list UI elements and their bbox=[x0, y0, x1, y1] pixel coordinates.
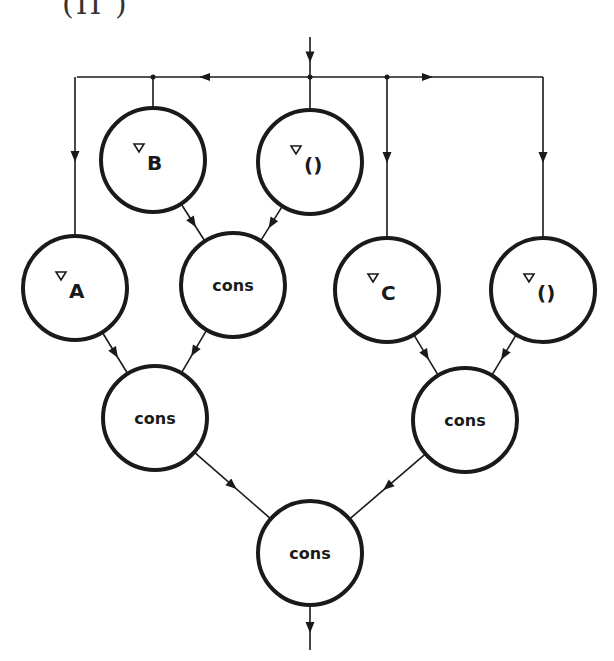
node-label: cons bbox=[444, 411, 485, 430]
arrowhead-icon bbox=[71, 151, 80, 162]
nodes: B()AconsC()consconscons bbox=[23, 108, 595, 605]
arrowhead-icon bbox=[199, 73, 210, 81]
node-label: cons bbox=[212, 276, 253, 295]
node-b: B bbox=[101, 108, 205, 212]
arrowhead-icon bbox=[191, 344, 200, 356]
arrowhead-icon bbox=[419, 348, 429, 360]
arrowhead-icon bbox=[186, 215, 196, 227]
node-label: A bbox=[69, 279, 85, 303]
node-label: cons bbox=[134, 409, 175, 428]
node-nil2: () bbox=[491, 238, 595, 342]
node-label: cons bbox=[289, 544, 330, 563]
node-cons1: cons bbox=[181, 233, 285, 337]
arrowhead-icon bbox=[422, 73, 433, 81]
node-nil1: () bbox=[258, 110, 362, 214]
arrowhead-icon bbox=[306, 622, 315, 633]
arrowhead-icon bbox=[539, 152, 548, 163]
node-cons2: cons bbox=[103, 366, 207, 470]
node-label: () bbox=[304, 153, 322, 177]
arrowhead-icon bbox=[269, 216, 279, 228]
dataflow-diagram: B()AconsC()consconscons bbox=[0, 0, 614, 661]
node-label: () bbox=[537, 281, 555, 305]
arrowhead-icon bbox=[383, 152, 392, 163]
arrowhead-icon bbox=[108, 346, 118, 358]
node-label: C bbox=[381, 281, 396, 305]
node-label: B bbox=[147, 151, 162, 175]
arrowhead-icon bbox=[501, 348, 511, 360]
node-cons3: cons bbox=[413, 368, 517, 472]
node-c: C bbox=[335, 238, 439, 342]
arrowhead-icon bbox=[306, 52, 315, 63]
node-cons4: cons bbox=[258, 501, 362, 605]
node-a: A bbox=[23, 236, 127, 340]
